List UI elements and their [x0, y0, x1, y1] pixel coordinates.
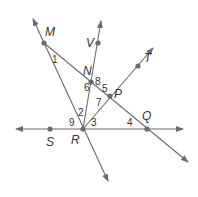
point-t-label: T [144, 51, 153, 65]
angle-2-label: 2 [78, 107, 84, 118]
point-q-label: Q [142, 109, 151, 123]
point-m-dot [41, 40, 46, 45]
point-r-label: R [71, 133, 80, 147]
point-n-label: N [83, 64, 92, 78]
angle-7-label: 7 [96, 97, 102, 108]
point-q-dot [144, 126, 149, 131]
point-v-label: V [86, 36, 95, 50]
point-s-label: S [46, 135, 54, 149]
point-s-dot [47, 126, 52, 131]
point-p-label: P [114, 87, 122, 101]
angle-1-label: 1 [52, 54, 58, 65]
angle-3-label: 3 [91, 117, 97, 128]
point-t-dot [135, 63, 140, 68]
point-r-dot [80, 126, 85, 131]
line-MNPQ [44, 43, 188, 162]
angle-9-label: 9 [69, 117, 75, 128]
angle-4-label: 4 [127, 117, 133, 128]
angle-5-label: 5 [102, 83, 108, 94]
geometry-diagram: MVTNPSRQ 123456789 [0, 0, 198, 197]
point-p-dot [107, 93, 112, 98]
point-v-dot [95, 40, 100, 45]
angle-8-label: 8 [95, 76, 101, 87]
angle-6-label: 6 [84, 82, 90, 93]
point-m-label: M [45, 25, 55, 39]
